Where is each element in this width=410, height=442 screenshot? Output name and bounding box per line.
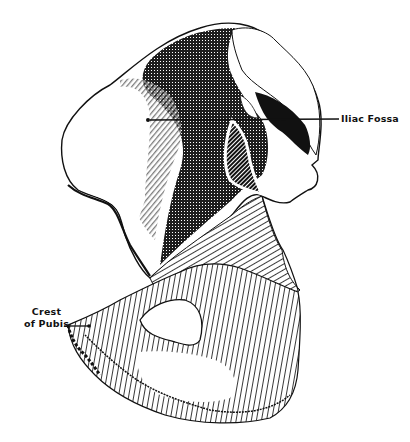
crest-of-pubis-label: Crest of Pubis (24, 306, 69, 330)
ilium-wing (62, 23, 322, 278)
hip-bone-illustration (0, 0, 410, 442)
pubis-ischium (68, 264, 300, 423)
iliac-fossa-pointer-dot (146, 118, 150, 122)
crest-of-pubis-label-line1: Crest (24, 306, 69, 318)
iliac-fossa-label: Iliac Fossa (341, 113, 399, 125)
crest-of-pubis-label-line2: of Pubis (24, 318, 69, 330)
